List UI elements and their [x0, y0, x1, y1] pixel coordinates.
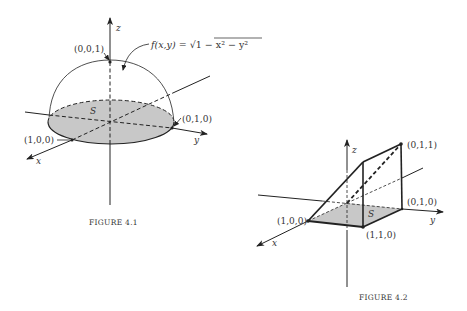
x-axis-label: x — [36, 156, 41, 166]
y-axis-front — [172, 128, 207, 134]
x-axis-back — [175, 76, 210, 92]
point-label-001: (0,0,1) — [74, 44, 104, 54]
y-axis-front-2 — [402, 209, 443, 212]
z-axis-label-2: z — [351, 145, 357, 155]
point-label-010: (0,1,0) — [182, 114, 212, 124]
point-010 — [170, 126, 173, 129]
leader-001 — [104, 53, 109, 60]
leader-formula — [123, 44, 149, 70]
figures-canvas: z y x (0,0,1) (1,0,0) (0,1,0) S f(x,y) =… — [0, 0, 467, 311]
region-label-s-2: S — [368, 209, 374, 219]
point-label-100-2: (1,0,0) — [277, 216, 307, 226]
y-axis-label: y — [193, 135, 200, 145]
back-vertical-edge — [401, 144, 402, 209]
y-axis-label-2: y — [429, 215, 436, 225]
point-100 — [70, 138, 73, 141]
y-axis-back-2 — [258, 195, 322, 201]
figure-4-2-caption: FIGURE 4.2 — [359, 293, 408, 302]
x-axis-back-dashed-2 — [347, 178, 402, 203]
figure-4-1-caption: FIGURE 4.1 — [89, 218, 138, 227]
point-label-110: (1,1,0) — [366, 230, 396, 240]
formula-radicand: 1 − x² − y² — [196, 39, 249, 50]
region-label-s: S — [90, 106, 96, 116]
point-001 — [108, 60, 111, 63]
point-label-011: (0,1,1) — [407, 140, 437, 150]
point-label-010-2: (0,1,0) — [407, 197, 437, 207]
figure-4-1: z y x (0,0,1) (1,0,0) (0,1,0) S f(x,y) =… — [24, 18, 262, 227]
point-010-2 — [401, 208, 404, 211]
point-label-100: (1,0,0) — [24, 135, 54, 145]
z-axis-label: z — [115, 23, 121, 33]
formula-lhs: f(x,y) = — [150, 39, 190, 50]
top-edge — [363, 144, 401, 162]
x-axis-label-2: x — [272, 238, 277, 248]
point-011 — [399, 142, 403, 146]
figure-4-2: z y x (0,1,1) (0,1,0) (1,0,0) (1,1,0) S … — [257, 140, 443, 302]
x-axis-back-2 — [402, 168, 423, 178]
point-110 — [361, 225, 365, 229]
formula: f(x,y) = √1 − x² − y² — [150, 39, 248, 50]
leader-010 — [174, 118, 181, 126]
y-axis-back — [25, 112, 49, 115]
